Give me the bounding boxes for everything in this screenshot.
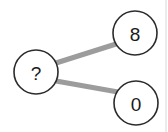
node-root[interactable]: ? — [14, 50, 58, 94]
node-root-label: ? — [31, 63, 42, 84]
edge-root-to-0 — [56, 81, 118, 92]
node-child-bottom[interactable]: 0 — [114, 81, 158, 125]
node-child-top-label: 8 — [130, 24, 141, 45]
graph-canvas: ? 8 0 — [0, 0, 168, 132]
edge-root-to-8 — [56, 44, 116, 63]
node-child-top[interactable]: 8 — [113, 11, 157, 55]
graph-diagram: ? 8 0 — [0, 0, 168, 132]
node-child-bottom-label: 0 — [131, 94, 142, 115]
